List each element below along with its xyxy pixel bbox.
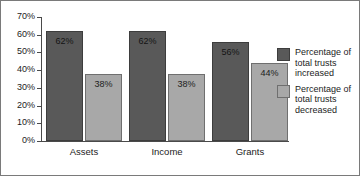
legend-label: Percentage of total trusts decreased xyxy=(295,84,359,116)
category-label-grants: Grants xyxy=(212,146,288,158)
legend-label: Percentage of total trusts increased xyxy=(295,47,359,79)
bar: 62% xyxy=(129,31,166,141)
y-axis-tick: 0% xyxy=(41,141,45,142)
bar: 38% xyxy=(85,74,122,141)
y-axis-tick-label: 40% xyxy=(17,64,35,75)
bar-value-label: 38% xyxy=(86,79,121,89)
y-axis-tick-mark xyxy=(37,88,41,89)
legend-entry: Percentage of total trusts increased xyxy=(277,47,359,79)
y-axis-tick: 70% xyxy=(41,17,45,18)
y-axis-tick: 60% xyxy=(41,35,45,36)
y-axis-tick: 40% xyxy=(41,70,45,71)
y-axis-tick: 10% xyxy=(41,123,45,124)
bar: 62% xyxy=(46,31,83,141)
bar-value-label: 38% xyxy=(169,79,204,89)
bar-chart-figure: 70%60%50%40%30%20%10%0% 62%38%62%38%56%4… xyxy=(0,0,360,176)
y-axis-tick-label: 60% xyxy=(17,29,35,40)
bar-value-label: 56% xyxy=(213,47,248,57)
y-axis-tick-label: 50% xyxy=(17,46,35,57)
category-label-assets: Assets xyxy=(46,146,122,158)
category-label-income: Income xyxy=(129,146,205,158)
legend-swatch-increased xyxy=(277,48,290,61)
y-axis-tick-label: 30% xyxy=(17,82,35,93)
y-axis-tick-label: 70% xyxy=(17,11,35,22)
y-axis-tick-mark xyxy=(37,17,41,18)
y-axis-tick-mark xyxy=(37,35,41,36)
x-axis-line xyxy=(41,141,289,142)
y-axis-tick-mark xyxy=(37,141,41,142)
y-axis-tick-mark xyxy=(37,123,41,124)
y-axis-tick: 30% xyxy=(41,88,45,89)
y-axis-tick-mark xyxy=(37,52,41,53)
y-axis-tick-label: 10% xyxy=(17,117,35,128)
y-axis-tick-label: 20% xyxy=(17,100,35,111)
chart-legend: Percentage of total trusts increasedPerc… xyxy=(277,47,359,120)
y-axis-tick-mark xyxy=(37,106,41,107)
y-axis-tick: 20% xyxy=(41,106,45,107)
y-axis-tick: 50% xyxy=(41,52,45,53)
y-axis-tick-label: 0% xyxy=(22,135,35,146)
bar: 38% xyxy=(168,74,205,141)
legend-swatch-decreased xyxy=(277,85,290,98)
y-axis-tick-mark xyxy=(37,70,41,71)
bar-value-label: 62% xyxy=(130,36,165,46)
legend-entry: Percentage of total trusts decreased xyxy=(277,84,359,116)
plot-area: 70%60%50%40%30%20%10%0% 62%38%62%38%56%4… xyxy=(41,17,289,142)
bar: 56% xyxy=(212,42,249,141)
bar-value-label: 62% xyxy=(47,36,82,46)
